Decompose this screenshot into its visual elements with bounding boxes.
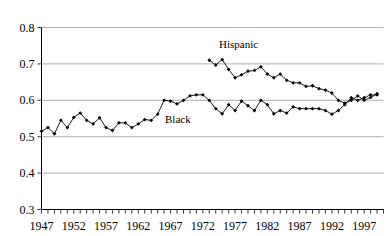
y-tick-label-0.6: 0.6 [20, 93, 35, 107]
data-point [253, 69, 257, 73]
data-point [278, 109, 282, 113]
data-point [240, 73, 244, 77]
x-tick-label-1987: 1987 [288, 219, 312, 233]
data-point [369, 95, 373, 99]
data-point [330, 112, 334, 116]
x-tick-label-1982: 1982 [255, 219, 279, 233]
x-tick-label-1962: 1962 [126, 219, 150, 233]
line-chart-plot: 0.30.40.50.60.70.8 194719521957196219671… [0, 0, 390, 236]
x-tick-label-1972: 1972 [191, 219, 215, 233]
x-tick-label-1967: 1967 [159, 219, 183, 233]
data-point [304, 107, 308, 111]
y-tick-label-0.4: 0.4 [20, 166, 35, 180]
y-tick-label-0.3: 0.3 [20, 203, 35, 217]
data-point [298, 107, 302, 111]
data-point [162, 98, 166, 102]
series-label-black: Black [165, 113, 191, 125]
data-point [272, 76, 276, 80]
gridlines-group [42, 28, 384, 174]
series-label-hispanic: Hispanic [219, 38, 258, 50]
x-axis-minor-ticks [42, 210, 384, 214]
y-tick-label-0.8: 0.8 [20, 21, 35, 35]
x-tick-label-1952: 1952 [62, 219, 86, 233]
data-point [311, 84, 315, 88]
x-tick-label-1997: 1997 [352, 219, 376, 233]
data-point [291, 81, 295, 85]
y-axis-ticks [38, 28, 42, 210]
y-axis-labels: 0.30.40.50.60.70.8 [20, 21, 35, 217]
data-point [356, 98, 360, 102]
data-point [324, 88, 328, 92]
data-point [304, 85, 308, 89]
x-tick-label-1957: 1957 [94, 219, 118, 233]
x-tick-label-1947: 1947 [30, 219, 54, 233]
x-axis-labels: 1947195219571962196719721977198219871992… [30, 219, 377, 233]
data-point [246, 69, 250, 73]
data-series-group [40, 58, 379, 136]
data-point [317, 107, 321, 111]
y-tick-label-0.5: 0.5 [20, 130, 35, 144]
x-tick-label-1992: 1992 [320, 219, 344, 233]
data-point [169, 99, 173, 103]
y-tick-label-0.7: 0.7 [20, 57, 35, 71]
x-tick-label-1977: 1977 [223, 219, 247, 233]
data-point [317, 87, 321, 91]
chart-figure: Lvi. co 0.30.40.50.60.70.8 1947195219571… [0, 0, 390, 236]
data-point [311, 107, 315, 111]
data-point [194, 93, 198, 97]
data-point [324, 109, 328, 113]
data-point [298, 81, 302, 85]
data-point [175, 102, 179, 106]
